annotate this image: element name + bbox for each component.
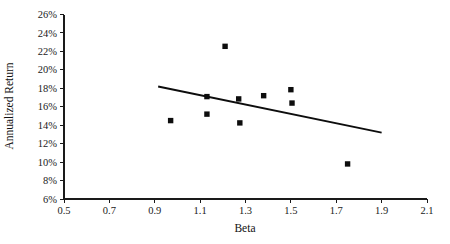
y-tick-label: 20% [38,64,58,75]
y-tick-label: 18% [38,83,58,94]
y-tick-label: 12% [38,138,58,149]
x-tick-label: 1.9 [375,205,388,216]
trendline [158,86,381,132]
x-tick-label: 0.5 [57,205,70,216]
y-tick-label: 6% [43,194,57,205]
x-tick-label: 1.3 [239,205,252,216]
x-axis-tick-labels: 0.50.70.91.11.31.51.71.92.1 [57,205,433,216]
y-axis-tick-marks [60,15,64,200]
data-point [345,161,350,166]
y-tick-label: 26% [38,9,58,20]
y-tick-label: 8% [43,175,57,186]
x-tick-label: 0.7 [103,205,116,216]
x-tick-label: 0.9 [148,205,161,216]
data-point-markers [168,44,350,167]
x-tick-label: 1.1 [194,205,207,216]
y-axis-title: Annualized Return [3,62,15,149]
scatter-plot: 6%8%10%12%14%16%18%20%22%24%26% 0.50.70.… [0,0,450,244]
data-point [289,100,294,105]
y-tick-label: 16% [38,101,58,112]
x-tick-label: 2.1 [420,205,433,216]
data-point [204,111,209,116]
y-tick-label: 24% [38,28,58,39]
y-tick-label: 22% [38,46,58,57]
data-point [288,87,293,92]
x-axis-title: Beta [234,222,255,234]
y-axis-tick-labels: 6%8%10%12%14%16%18%20%22%24%26% [38,9,58,205]
y-tick-label: 10% [38,157,58,168]
x-tick-label: 1.7 [330,205,343,216]
x-axis-tick-marks [64,199,427,203]
data-point [222,44,227,49]
data-point [261,93,266,98]
chart-figure: 6%8%10%12%14%16%18%20%22%24%26% 0.50.70.… [0,0,450,244]
y-tick-label: 14% [38,120,58,131]
data-point [237,120,242,125]
data-point [204,94,209,99]
data-point [168,118,173,123]
data-point [236,96,241,101]
x-tick-label: 1.5 [284,205,297,216]
